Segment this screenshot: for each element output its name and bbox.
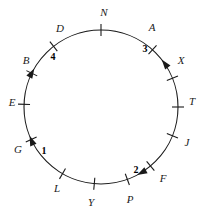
arrow-label-4: 4	[51, 52, 56, 62]
point-label-e: E	[9, 97, 16, 108]
circle-diagram-figure: NAXTJFPYLGEBD 1234	[0, 0, 206, 213]
arrow-head-3	[162, 60, 171, 70]
main-circle	[24, 30, 178, 184]
point-label-t: T	[189, 96, 195, 107]
tick-mark-y	[94, 178, 95, 190]
point-label-f: F	[160, 173, 167, 184]
tick-mark-d	[50, 42, 57, 51]
arrow-head-group	[26, 60, 170, 175]
arrow-head-2	[137, 167, 147, 175]
circle-diagram-svg	[0, 0, 206, 213]
point-label-g: G	[14, 144, 22, 155]
tick-mark-j	[167, 134, 178, 138]
tick-mark-f	[147, 161, 155, 170]
tick-mark-l	[60, 168, 66, 178]
arrow-head-4	[26, 69, 34, 79]
circle-outline-group	[24, 30, 178, 184]
tick-mark-group	[18, 24, 184, 190]
point-label-a: A	[149, 22, 156, 33]
point-label-x: X	[178, 55, 185, 66]
point-label-y: Y	[88, 197, 94, 208]
point-label-b: B	[23, 55, 30, 66]
arrow-label-2: 2	[134, 165, 139, 175]
point-label-d: D	[56, 23, 64, 34]
point-label-p: P	[127, 194, 134, 205]
arrow-label-1: 1	[42, 146, 47, 156]
point-label-n: N	[100, 7, 107, 18]
arrow-label-3: 3	[143, 44, 148, 54]
point-label-j: J	[185, 137, 190, 148]
point-label-l: L	[54, 183, 60, 194]
tick-mark-x	[167, 76, 178, 80]
